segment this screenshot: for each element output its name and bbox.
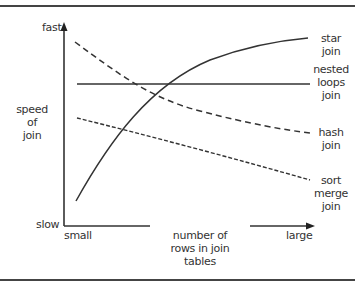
line-star-join [76, 38, 308, 201]
label-hash-join: hash join [311, 126, 351, 152]
label-sort-merge-join: sort merge join [311, 174, 351, 213]
x-axis-title-line2: rows in join [155, 242, 245, 255]
y-axis-arrow-icon [61, 22, 68, 31]
x-axis-title-line1: number of [155, 229, 245, 242]
label-hash-line2: join [311, 139, 351, 152]
y-axis-title-line1: speed [14, 103, 50, 116]
x-tick-small: small [64, 229, 92, 242]
line-hash-join [75, 42, 310, 133]
label-star-line2: join [311, 45, 351, 58]
label-nested-loops-join: nested loops join [311, 63, 351, 102]
y-tick-slow: slow [36, 218, 59, 231]
y-axis-title-line2: of [14, 116, 50, 129]
label-sort-line3: join [311, 200, 351, 213]
label-sort-line1: sort [311, 174, 351, 187]
label-sort-line2: merge [311, 187, 351, 200]
label-nested-line2: loops [311, 76, 351, 89]
label-nested-line3: join [311, 89, 351, 102]
x-axis-title: number of rows in join tables [155, 229, 245, 268]
label-star-join: star join [311, 32, 351, 58]
label-hash-line1: hash [311, 126, 351, 139]
y-axis-title: speed of join [14, 103, 50, 142]
x-axis-title-line3: tables [155, 255, 245, 268]
axes [64, 30, 306, 226]
label-star-line1: star [311, 32, 351, 45]
label-nested-line1: nested [311, 63, 351, 76]
y-axis-title-line3: join [14, 129, 50, 142]
y-tick-fast: fast [42, 21, 61, 34]
x-tick-large: large [286, 229, 312, 242]
